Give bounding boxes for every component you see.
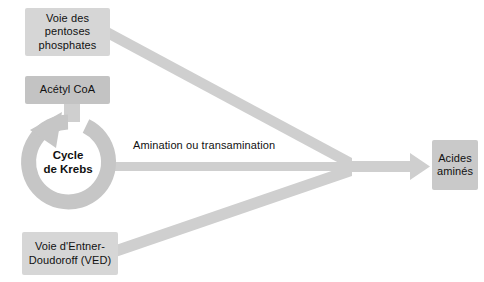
node-ved-line2: Doudoroff (VED) (29, 254, 112, 268)
node-acetyl-coa[interactable]: Acétyl CoA (25, 76, 110, 104)
node-acides-amines-line2: aminés (437, 165, 473, 179)
node-pentoses-text: Voie des pentoses phosphates (39, 12, 97, 53)
node-pentoses-line3: phosphates (39, 39, 97, 53)
krebs-cycle-label-line2: de Krebs (20, 162, 116, 176)
node-ved-line1: Voie d'Entner- (29, 240, 112, 254)
node-ved-text: Voie d'Entner- Doudoroff (VED) (29, 240, 112, 267)
krebs-cycle-label: Cycle de Krebs (20, 148, 116, 176)
metabolic-pathway-diagram: Voie des pentoses phosphates Acétyl CoA … (0, 0, 484, 282)
node-voie-entner-doudoroff[interactable]: Voie d'Entner- Doudoroff (VED) (22, 232, 118, 275)
node-acides-amines[interactable]: Acides aminés (432, 140, 478, 190)
node-acetyl-coa-label: Acétyl CoA (40, 83, 95, 97)
edge-label-amination: Amination ou transamination (133, 139, 275, 151)
arrow-ved-to-junction (110, 164, 352, 259)
arrow-junction-to-acides-amines (344, 153, 430, 180)
node-pentoses-line2: pentoses (39, 25, 97, 39)
node-voie-pentoses-phosphates[interactable]: Voie des pentoses phosphates (25, 8, 110, 56)
arrow-krebs-to-junction (112, 162, 352, 171)
node-acides-amines-line1: Acides (437, 152, 473, 166)
node-acides-amines-text: Acides aminés (437, 152, 473, 179)
node-pentoses-line1: Voie des (39, 12, 97, 26)
krebs-cycle-label-line1: Cycle (20, 148, 116, 162)
